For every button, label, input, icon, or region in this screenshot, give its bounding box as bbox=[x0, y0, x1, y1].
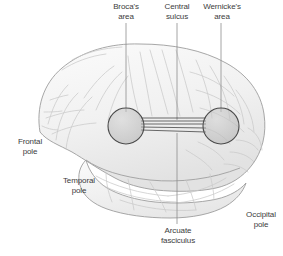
label-arcuate-fasciculus: Arcuate fasciculus bbox=[152, 226, 204, 245]
brocas-area-marker[interactable] bbox=[108, 108, 144, 144]
label-brocas-area: Broca's area bbox=[104, 2, 148, 21]
label-frontal-pole: Frontal pole bbox=[8, 137, 52, 156]
label-occipital-pole: Occipital pole bbox=[238, 210, 283, 229]
label-temporal-pole: Temporal pole bbox=[53, 176, 105, 195]
label-wernickes-area: Wernicke's area bbox=[196, 2, 248, 21]
label-central-sulcus: Central sulcus bbox=[155, 2, 199, 21]
wernickes-area-marker[interactable] bbox=[203, 108, 239, 144]
brain-language-areas-figure: Broca's area Central sulcus Wernicke's a… bbox=[0, 0, 283, 256]
